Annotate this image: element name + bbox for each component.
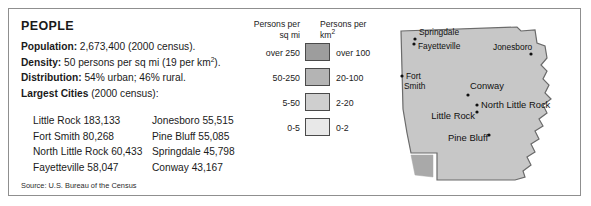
fact-largest-cities: Largest Cities (2000 census):	[21, 86, 243, 102]
fact-density-tail: ).	[214, 57, 220, 68]
legend-swatch	[305, 43, 330, 61]
legend-label-sq-mi: 5-50	[228, 98, 300, 108]
fact-population-label: Population:	[21, 41, 77, 52]
city-name-right: Springdale 45,798	[152, 144, 261, 160]
city-row: Fort Smith 80,268 Pine Bluff 55,085	[21, 129, 261, 145]
legend-swatch	[305, 118, 330, 136]
fact-distribution-label: Distribution:	[21, 72, 82, 83]
legend-heading-sq-mi-line2: sq mi	[228, 30, 300, 41]
arkansas-map-svg: SpringdaleFayettevilleJonesboroFortSmith…	[397, 13, 579, 193]
city-dot	[466, 93, 469, 96]
legend-label-sq-mi: 0-5	[228, 123, 300, 133]
map-city-label: North Little Rock	[481, 99, 551, 110]
source-credit: Source: U.S. Bureau of the Census	[21, 181, 136, 190]
city-name-left: North Little Rock 60,433	[21, 144, 152, 160]
city-name-right: Conway 43,167	[152, 160, 261, 176]
density-legend: Persons per sq mi Persons per km2 over 2…	[228, 19, 383, 143]
legend-heading-sq-mi-line1: Persons per	[228, 19, 300, 30]
legend-row-over-250: over 250 over 100	[228, 43, 383, 68]
city-row: North Little Rock 60,433 Springdale 45,7…	[21, 144, 261, 160]
legend-heading-sq-mi: Persons per sq mi	[228, 19, 300, 41]
map-city-label: Pine Bluff	[448, 132, 488, 143]
legend-label-km2: over 100	[336, 48, 406, 58]
city-dot	[475, 103, 478, 106]
fact-distribution-value: 54% urban; 46% rural.	[82, 72, 186, 83]
largest-cities-list: Little Rock 183,133 Jonesboro 55,515 For…	[21, 113, 261, 175]
legend-label-km2: 20-100	[336, 73, 406, 83]
city-dot	[475, 110, 478, 113]
legend-label-sq-mi: 50-250	[228, 73, 300, 83]
city-dot	[412, 42, 415, 45]
fact-density: Density: 50 persons per sq mi (19 per km…	[21, 55, 243, 71]
map-city-label: Conway	[470, 80, 504, 91]
map-city-label: Little Rock	[431, 110, 475, 121]
city-name-left: Fort Smith 80,268	[21, 129, 152, 145]
map-city-label: Springdale	[419, 27, 459, 37]
city-dot	[529, 52, 532, 55]
legend-heading-km2-line2: km2	[320, 30, 392, 41]
legend-headings: Persons per sq mi Persons per km2	[228, 19, 383, 43]
legend-row-5-50: 5-50 2-20	[228, 93, 383, 118]
legend-label-sq-mi: over 250	[228, 48, 300, 58]
legend-km2-superscript: 2	[331, 28, 335, 35]
city-row: Little Rock 183,133 Jonesboro 55,515	[21, 113, 261, 129]
map-city-label: Fayetteville	[418, 41, 461, 51]
fact-largest-cities-value: (2000 census):	[88, 88, 158, 99]
facts-block: PEOPLE Population: 2,673,400 (2000 censu…	[21, 19, 243, 101]
fact-density-label: Density:	[21, 57, 61, 68]
legend-label-km2: 0-2	[336, 123, 406, 133]
legend-label-km2: 2-20	[336, 98, 406, 108]
fact-largest-cities-label: Largest Cities	[21, 88, 88, 99]
legend-swatch	[305, 68, 330, 86]
city-name-left: Little Rock 183,133	[21, 113, 152, 129]
legend-km-text: km	[320, 30, 331, 40]
city-name-left: Fayetteville 58,047	[21, 160, 152, 176]
legend-swatch	[305, 93, 330, 111]
people-infographic-panel: PEOPLE Population: 2,673,400 (2000 censu…	[8, 8, 581, 196]
fact-distribution: Distribution: 54% urban; 46% rural.	[21, 70, 243, 86]
map-city-label: Jonesboro	[493, 42, 532, 52]
page-title: PEOPLE	[21, 19, 243, 33]
fact-population-value: 2,673,400 (2000 census).	[77, 41, 195, 52]
map-city-label: Smith	[404, 81, 426, 91]
city-dot	[413, 37, 416, 40]
fact-density-value: 50 persons per sq mi (19 per km	[61, 57, 210, 68]
fact-population: Population: 2,673,400 (2000 census).	[21, 39, 243, 55]
arkansas-map: SpringdaleFayettevilleJonesboroFortSmith…	[397, 13, 579, 193]
legend-row-50-250: 50-250 20-100	[228, 68, 383, 93]
city-dot	[400, 74, 403, 77]
legend-row-0-5: 0-5 0-2	[228, 118, 383, 143]
legend-heading-km2: Persons per km2	[320, 19, 392, 41]
map-city-label: Fort	[406, 71, 422, 81]
city-row: Fayetteville 58,047 Conway 43,167	[21, 160, 261, 176]
